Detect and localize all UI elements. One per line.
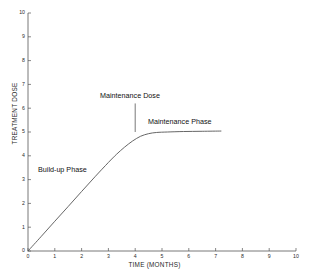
- y-axis-title: TREATMENT DOSE: [11, 64, 18, 164]
- x-tick-label: 3: [102, 254, 114, 259]
- x-tick-label: 2: [76, 254, 88, 259]
- treatment-dose-chart: 012345678910 012345678910 TIME (MONTHS) …: [0, 0, 309, 279]
- y-tick-label: 10: [13, 10, 25, 15]
- x-tick-label: 5: [156, 254, 168, 259]
- x-axis-title: TIME (MONTHS): [0, 261, 309, 268]
- x-tick-label: 7: [210, 254, 222, 259]
- x-tick-label: 4: [129, 254, 141, 259]
- x-tick-label: 6: [183, 254, 195, 259]
- y-tick-label: 0: [13, 248, 25, 253]
- annotation-maintenance-phase: Maintenance Phase: [148, 118, 212, 125]
- y-tick-label: 9: [13, 34, 25, 39]
- y-tick-label: 3: [13, 177, 25, 182]
- dose-curve: [28, 131, 221, 251]
- x-tick-label: 0: [22, 254, 34, 259]
- annotation-buildup-phase: Build-up Phase: [38, 166, 87, 173]
- x-tick-label: 8: [236, 254, 248, 259]
- y-tick-label: 1: [13, 225, 25, 230]
- y-tick-label: 2: [13, 201, 25, 206]
- x-tick-label: 1: [49, 254, 61, 259]
- y-tick-label: 8: [13, 58, 25, 63]
- annotation-maintenance-dose: Maintenance Dose: [100, 92, 160, 99]
- x-tick-label: 10: [290, 254, 302, 259]
- x-tick-label: 9: [263, 254, 275, 259]
- chart-plot-area: [0, 0, 309, 279]
